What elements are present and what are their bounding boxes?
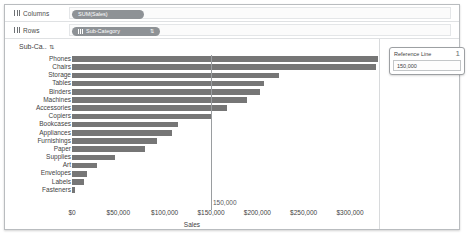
rows-shelf-label: Rows	[14, 27, 40, 34]
bar-mark[interactable]	[72, 138, 157, 144]
x-axis-tick: $100,000	[151, 209, 178, 216]
x-axis-tick: $150,000	[197, 209, 224, 216]
bar-row-label: Art	[0, 162, 71, 169]
bar-row: Bookcases	[5, 121, 379, 129]
bar-row: Machines	[5, 96, 379, 104]
reference-line[interactable]	[211, 55, 212, 210]
bar-row-label: Chairs	[0, 64, 71, 71]
reference-line-card-index: 1	[456, 50, 460, 58]
pill-sub-category[interactable]: Sub-Category ⇅	[72, 27, 160, 36]
bar-plot: PhonesChairsStorageTablesBindersMachines…	[5, 55, 379, 195]
bar-row-label: Copiers	[0, 113, 71, 120]
pill-label-sub-category: Sub-Category	[86, 28, 120, 34]
bar-mark[interactable]	[72, 179, 84, 185]
bar-row: Envelopes	[5, 170, 379, 178]
bar-mark[interactable]	[72, 130, 172, 136]
row-axis-header[interactable]: Sub-Ca.. ⇅	[19, 43, 54, 50]
row-axis-header-label: Sub-Ca..	[19, 43, 47, 50]
bar-mark[interactable]	[72, 73, 279, 79]
bar-row: Appliances	[5, 129, 379, 137]
bar-mark[interactable]	[72, 81, 264, 87]
bar-mark[interactable]	[72, 187, 75, 193]
pane-divider	[379, 39, 380, 229]
bar-row-label: Labels	[0, 179, 71, 186]
bar-row: Supplies	[5, 153, 379, 161]
bar-row-label: Furnishings	[0, 138, 71, 145]
grid-icon	[14, 27, 20, 33]
x-axis-tick: $200,000	[244, 209, 271, 216]
pill-label-sum-sales: SUM(Sales)	[78, 11, 108, 17]
bar-row: Furnishings	[5, 137, 379, 145]
bar-row-label: Binders	[0, 89, 71, 96]
sort-icon[interactable]: ⇅	[48, 43, 54, 50]
shelf-area: Columns SUM(Sales) Rows Sub-Category ⇅	[5, 5, 459, 39]
bar-row-label: Storage	[0, 72, 71, 79]
bar-row: Storage	[5, 71, 379, 79]
columns-shelf-label: Columns	[14, 10, 49, 17]
bar-mark[interactable]	[72, 64, 376, 70]
bar-mark[interactable]	[72, 171, 87, 177]
bar-mark[interactable]	[72, 146, 145, 152]
reference-line-label: 150,000	[213, 199, 237, 206]
bar-row-label: Tables	[0, 80, 71, 87]
bar-row: Accessories	[5, 104, 379, 112]
tableau-worksheet-window: Columns SUM(Sales) Rows Sub-Category ⇅	[4, 4, 460, 230]
bar-mark[interactable]	[72, 122, 178, 128]
columns-shelf-slot[interactable]: SUM(Sales)	[69, 7, 451, 19]
bar-row-label: Fasteners	[0, 187, 71, 194]
chart-canvas: Sub-Ca.. ⇅ PhonesChairsStorageTablesBind…	[5, 39, 459, 229]
bar-row-label: Bookcases	[0, 121, 71, 128]
columns-label-text: Columns	[23, 10, 49, 17]
x-axis-tick: $0	[68, 209, 75, 216]
bar-row-label: Paper	[0, 146, 71, 153]
x-axis-tick: $50,000	[107, 209, 131, 216]
grid-icon	[78, 29, 83, 34]
x-axis[interactable]: $0$50,000$100,000$150,000$200,000$250,00…	[5, 209, 379, 221]
bar-row-label: Appliances	[0, 130, 71, 137]
rows-shelf-slot[interactable]: Sub-Category ⇅	[69, 24, 451, 36]
bar-row: Labels	[5, 178, 379, 186]
grid-icon	[14, 10, 20, 16]
x-axis-tick: $300,000	[336, 209, 363, 216]
bar-row: Fasteners	[5, 186, 379, 194]
bar-mark[interactable]	[72, 114, 211, 120]
bar-mark[interactable]	[72, 56, 378, 62]
columns-shelf[interactable]: Columns SUM(Sales)	[5, 5, 459, 22]
bar-mark[interactable]	[72, 155, 115, 161]
sort-icon[interactable]: ⇅	[150, 29, 154, 34]
reference-line-card-header: Reference Line 1	[393, 50, 461, 60]
bar-row: Binders	[5, 88, 379, 96]
bar-row: Paper	[5, 145, 379, 153]
bar-row: Copiers	[5, 112, 379, 120]
bar-row-label: Machines	[0, 97, 71, 104]
bar-row: Tables	[5, 80, 379, 88]
bar-row: Art	[5, 161, 379, 169]
x-axis-tick: $250,000	[290, 209, 317, 216]
bar-row-label: Supplies	[0, 154, 71, 161]
bar-row: Chairs	[5, 63, 379, 71]
x-axis-title: Sales	[5, 221, 379, 228]
reference-line-value-field[interactable]: 150,000	[393, 60, 461, 71]
pill-sum-sales[interactable]: SUM(Sales)	[72, 10, 144, 19]
bar-row-label: Accessories	[0, 105, 71, 112]
bar-mark[interactable]	[72, 97, 247, 103]
bar-mark[interactable]	[72, 89, 260, 95]
reference-line-card[interactable]: Reference Line 1 150,000	[389, 47, 465, 75]
bar-mark[interactable]	[72, 163, 97, 169]
bar-mark[interactable]	[72, 105, 227, 111]
bar-row-label: Phones	[0, 56, 71, 63]
rows-label-text: Rows	[23, 27, 40, 34]
rows-shelf[interactable]: Rows Sub-Category ⇅	[5, 22, 459, 39]
bar-row: Phones	[5, 55, 379, 63]
reference-line-card-title: Reference Line	[394, 51, 431, 57]
bar-row-label: Envelopes	[0, 170, 71, 177]
